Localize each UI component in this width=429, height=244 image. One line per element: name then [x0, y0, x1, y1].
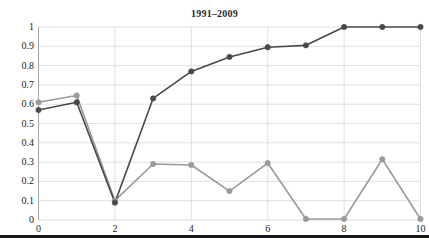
data-point-dark-series [36, 107, 41, 112]
data-point-light-series [74, 93, 79, 98]
data-point-light-series [341, 216, 346, 221]
data-point-dark-series [265, 45, 270, 50]
data-point-light-series [189, 162, 194, 167]
data-point-light-series [380, 157, 385, 162]
data-point-dark-series [227, 54, 232, 59]
page-separator-rule [0, 235, 429, 238]
data-point-dark-series [380, 24, 385, 29]
series-line-dark-series [39, 27, 421, 203]
data-point-light-series [36, 100, 41, 105]
data-point-dark-series [74, 100, 79, 105]
plot-area [0, 0, 429, 244]
data-point-light-series [418, 216, 423, 221]
data-point-light-series [227, 188, 232, 193]
data-point-dark-series [150, 96, 155, 101]
data-point-light-series [150, 161, 155, 166]
data-point-dark-series [112, 200, 117, 205]
data-point-dark-series [189, 69, 194, 74]
data-point-dark-series [418, 24, 423, 29]
data-point-dark-series [341, 24, 346, 29]
data-point-dark-series [303, 43, 308, 48]
data-point-light-series [303, 216, 308, 221]
line-chart-canvas [0, 0, 429, 244]
chart-figure: 1991–2009 00.10.20.30.40.50.60.70.80.91 … [0, 0, 429, 244]
data-point-light-series [265, 160, 270, 165]
